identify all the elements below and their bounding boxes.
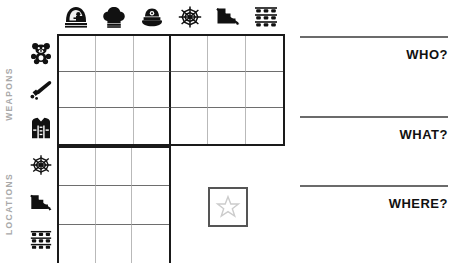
answer-rule-who [300,36,448,38]
grid-cell[interactable] [96,108,133,144]
grid-cell[interactable] [208,108,245,144]
star-icon [215,194,241,220]
answer-rule-where [300,185,448,187]
grid-cell[interactable] [96,36,133,72]
grid-cell[interactable] [59,186,96,224]
deduction-grid-top[interactable] [57,34,285,146]
grid-cell[interactable] [132,186,169,224]
grid-cell[interactable] [59,225,96,263]
section-label-locations-text: LOCATIONS [4,173,14,235]
grid-cell[interactable] [59,72,96,108]
answer-rule-what [300,116,448,118]
answer-slot-who[interactable]: WHO? [300,36,448,62]
section-label-weapons: WEAPONS [0,44,18,144]
deduction-grid-bottom[interactable] [57,146,171,263]
grid-cell[interactable] [208,72,245,108]
spider-web-icon [26,147,56,185]
bunk-beds-icon [26,222,56,260]
answer-label-where: WHERE? [300,196,448,211]
grid-cell[interactable] [132,225,169,263]
police-cap-icon [133,2,171,32]
staircase-icon [209,2,247,32]
baseball-bat-icon [26,72,56,110]
grid-cell[interactable] [59,148,96,186]
staircase-icon [26,184,56,222]
grid-cell[interactable] [246,36,283,72]
teddy-bear-icon [26,34,56,72]
grid-cell[interactable] [134,36,171,72]
star-box[interactable] [208,187,248,227]
grid-cell[interactable] [59,108,96,144]
section-label-locations: LOCATIONS [0,152,18,256]
grid-cell[interactable] [59,36,96,72]
jacket-icon [26,109,56,147]
grid-cell[interactable] [171,36,208,72]
grid-cell[interactable] [132,148,169,186]
grid-cell[interactable] [134,72,171,108]
answer-slot-where[interactable]: WHERE? [300,185,448,211]
grid-cell[interactable] [96,72,133,108]
grid-cell[interactable] [171,108,208,144]
bunk-beds-icon [247,2,285,32]
section-label-weapons-text: WEAPONS [4,67,14,121]
grid-cell[interactable] [171,72,208,108]
row-icon-strip [26,34,56,259]
spider-web-icon [171,2,209,32]
chef-hat-icon [95,2,133,32]
answer-label-who: WHO? [300,47,448,62]
grid-cell[interactable] [96,148,133,186]
knight-helmet-icon [57,2,95,32]
answer-label-what: WHAT? [300,127,448,142]
grid-cell[interactable] [246,108,283,144]
grid-cell[interactable] [96,225,133,263]
grid-cell[interactable] [208,36,245,72]
grid-cell[interactable] [134,108,171,144]
grid-cell[interactable] [96,186,133,224]
grid-cell[interactable] [246,72,283,108]
column-icon-strip [57,2,285,32]
answer-slot-what[interactable]: WHAT? [300,116,448,142]
